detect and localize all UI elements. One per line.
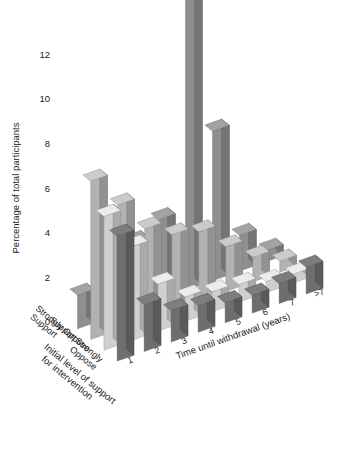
y-tick-label: 6 (45, 183, 50, 194)
y-tick-label: 8 (45, 138, 50, 149)
x-tick-label-7: 7 (288, 297, 296, 308)
y-tick-label: 12 (39, 49, 50, 60)
y-tick-label: 10 (39, 93, 50, 104)
three-d-bar-chart: 024681012 1234567>7 StronglySupportSuppo… (0, 0, 359, 451)
y-tick-label: 2 (45, 272, 50, 283)
x-tick-label-1: 1 (126, 354, 134, 365)
x-tick-label-5: 5 (234, 316, 242, 327)
y-tick-label: 4 (45, 227, 50, 238)
x-tick-label-6: 6 (261, 306, 269, 317)
y-axis-title: Percentage of total participants (10, 122, 21, 253)
x-tick-label-3: 3 (180, 335, 188, 346)
y-axis-layer: 024681012 (39, 49, 50, 328)
x-tick-label->7: >7 (313, 286, 326, 299)
x-tick-label-4: 4 (207, 326, 215, 337)
x-tick-label-2: 2 (153, 345, 161, 356)
bars-layer (70, 0, 323, 361)
chart-page: 024681012 1234567>7 StronglySupportSuppo… (0, 0, 359, 451)
